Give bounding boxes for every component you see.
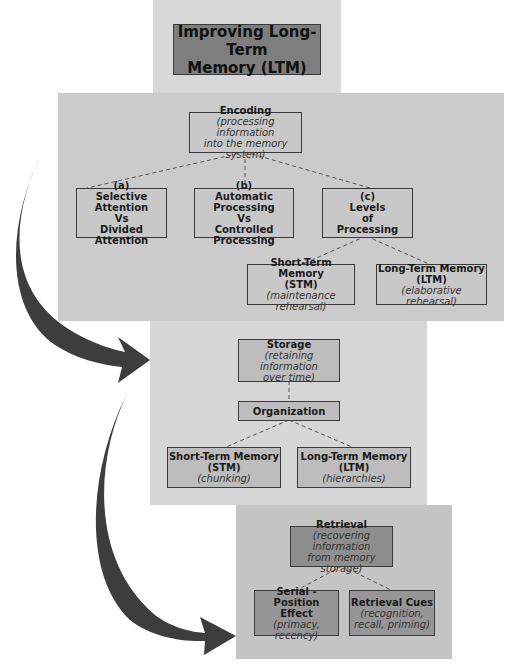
primacy-recency-text: (primacy, recency) [255, 619, 338, 641]
retrieval-cues-text: Retrieval Cues [351, 597, 433, 608]
levels-of-processing-box: (c) Levels of Processing [322, 188, 413, 238]
label-b: (b) [236, 180, 252, 191]
elaborative-rehearsal-text: (elaborative rehearsal) [377, 285, 486, 307]
hierarchies-text: (hierarchies) [322, 473, 385, 484]
organization-text: Organization [253, 406, 326, 417]
retrieval-desc2: from memory storage) [291, 552, 392, 574]
ltm-abbr: (LTM) [339, 462, 370, 473]
encoding-stm-box: Short-Term Memory (STM) (maintenance reh… [247, 264, 355, 305]
ltm-title: Long-Term Memory [301, 451, 408, 462]
retrieval-heading: Retrieval [316, 519, 367, 530]
effect-text: Effect [280, 608, 312, 619]
encoding-box: Encoding (processing information into th… [189, 112, 302, 153]
stm-abbr: (STM) [207, 462, 240, 473]
selective-attention-box: (a) Selective Attention Vs Divided Atten… [76, 188, 167, 238]
divided-attention-text: Divided Attention [77, 224, 166, 246]
curved-arrow-encoding-to-storage-icon [16, 148, 150, 383]
encoding-desc1: (processing information [190, 116, 301, 138]
controlled-processing-text: Controlled Processing [195, 224, 293, 246]
title-line1: Improving Long-Term [174, 23, 320, 59]
storage-desc1: (retaining information [239, 350, 339, 372]
vs-text: Vs [237, 213, 251, 224]
retrieval-cues-box: Retrieval Cues (recognition, recall, pri… [349, 590, 435, 636]
title-box: Improving Long-Term Memory (LTM) [173, 24, 321, 75]
of-text: of [362, 213, 373, 224]
processing-text: Processing [337, 224, 398, 235]
storage-ltm-box: Long-Term Memory (LTM) (hierarchies) [297, 447, 411, 488]
ltm-abbr: (LTM) [416, 274, 447, 285]
title-line2: Memory (LTM) [187, 59, 306, 77]
storage-box: Storage (retaining information over time… [238, 339, 340, 382]
stm-title: Short-Term Memory [169, 451, 279, 462]
automatic-processing-text: Automatic Processing [195, 191, 293, 213]
retrieval-box: Retrieval (recovering information from m… [290, 526, 393, 567]
vs-text: Vs [115, 213, 129, 224]
stm-abbr: (STM) [284, 279, 317, 290]
storage-desc2: over time) [263, 372, 315, 383]
label-a: (a) [114, 180, 130, 191]
encoding-heading: Encoding [220, 105, 272, 116]
recall-priming-text: recall, priming) [354, 619, 430, 630]
encoding-ltm-box: Long-Term Memory (LTM) (elaborative rehe… [376, 264, 487, 305]
recognition-text: (recognition, [360, 608, 424, 619]
organization-box: Organization [238, 401, 340, 421]
levels-text: Levels [350, 202, 386, 213]
ltm-title: Long-Term Memory [378, 263, 485, 274]
diagram-connectors [0, 0, 506, 669]
storage-stm-box: Short-Term Memory (STM) (chunking) [167, 447, 281, 488]
serial-position-text: Serial -Position [255, 586, 338, 608]
serial-position-effect-box: Serial -Position Effect (primacy, recenc… [254, 590, 339, 636]
curved-arrow-storage-to-retrieval-icon [96, 394, 236, 655]
retrieval-desc1: (recovering information [291, 530, 392, 552]
storage-heading: Storage [267, 339, 311, 350]
chunking-text: (chunking) [197, 473, 251, 484]
encoding-desc2: into the memory system) [190, 138, 301, 160]
automatic-processing-box: (b) Automatic Processing Vs Controlled P… [194, 188, 294, 238]
selective-attention-text: Selective Attention [77, 191, 166, 213]
stm-title: Short-Term Memory [248, 257, 354, 279]
label-c: (c) [360, 191, 375, 202]
maintenance-rehearsal-text: (maintenance rehearsal) [248, 290, 354, 312]
